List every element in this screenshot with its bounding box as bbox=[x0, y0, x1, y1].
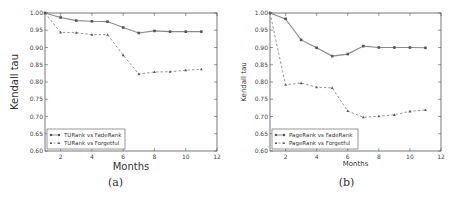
y-tick-label: 1.00 bbox=[30, 9, 44, 16]
y-tick-label: 0.95 bbox=[255, 26, 269, 33]
legend-label: PageRank vs Forgetful bbox=[289, 140, 351, 147]
y-tick-label: 0.95 bbox=[30, 26, 44, 33]
series-line-faderank bbox=[270, 13, 426, 56]
data-point-square bbox=[362, 45, 365, 48]
data-point-square bbox=[284, 18, 287, 21]
data-point-square bbox=[169, 30, 172, 33]
y-tick-label: 0.60 bbox=[255, 147, 269, 154]
legend: TURank vs FadeRankTURank vs Forgetful bbox=[47, 129, 125, 149]
data-point-square bbox=[91, 20, 94, 23]
legend-marker-square-icon bbox=[275, 134, 277, 136]
x-axis-title: Months bbox=[343, 160, 369, 168]
y-tick-label: 0.70 bbox=[255, 113, 269, 120]
y-tick-label: 0.75 bbox=[30, 95, 44, 102]
legend-label: TURank vs Forgetful bbox=[63, 140, 120, 147]
x-tick-label: 10 bbox=[182, 153, 190, 160]
caption-a: (a) bbox=[0, 176, 231, 189]
legend-label: PageRank vs FadeRank bbox=[289, 132, 353, 139]
x-tick-label: 2 bbox=[284, 153, 288, 160]
data-point-triangle bbox=[331, 86, 334, 89]
y-tick-label: 0.90 bbox=[255, 44, 269, 51]
data-point-square bbox=[424, 47, 427, 50]
legend-marker-square-icon bbox=[50, 134, 52, 136]
data-point-square bbox=[106, 20, 109, 23]
x-tick-label: 4 bbox=[315, 153, 319, 160]
caption-b: (b) bbox=[231, 176, 462, 189]
y-tick-label: 0.60 bbox=[30, 147, 44, 154]
y-tick-label: 0.80 bbox=[255, 78, 269, 85]
chart-panel-b: 0.600.650.700.750.800.850.900.951.002468… bbox=[231, 0, 462, 201]
x-tick-label: 8 bbox=[377, 153, 381, 160]
line-chart-b: 0.600.650.700.750.800.850.900.951.002468… bbox=[231, 0, 462, 201]
data-point-square bbox=[315, 47, 318, 50]
data-point-square bbox=[122, 26, 125, 29]
data-point-square bbox=[153, 30, 156, 33]
data-point-square bbox=[300, 39, 303, 42]
data-point-square bbox=[59, 16, 62, 19]
x-tick-label: 4 bbox=[90, 153, 94, 160]
x-tick-label: 2 bbox=[59, 153, 63, 160]
x-tick-label: 8 bbox=[153, 153, 157, 160]
legend-label: TURank vs FadeRank bbox=[63, 132, 122, 138]
x-axis-title: Months bbox=[113, 161, 150, 172]
data-point-square bbox=[378, 46, 381, 49]
data-point-square bbox=[331, 55, 334, 58]
data-point-square bbox=[138, 32, 141, 35]
y-tick-label: 0.80 bbox=[30, 78, 44, 85]
data-point-square bbox=[184, 30, 187, 33]
x-tick-label: 12 bbox=[437, 153, 445, 160]
data-point-triangle bbox=[106, 33, 109, 36]
y-axis-title: Kendall tau bbox=[240, 62, 248, 101]
y-tick-label: 0.85 bbox=[30, 61, 44, 68]
chart-panel-a: 0.600.650.700.750.800.850.900.951.002468… bbox=[0, 0, 231, 201]
data-point-triangle bbox=[346, 109, 349, 112]
x-tick-label: 10 bbox=[406, 153, 414, 160]
data-point-triangle bbox=[200, 68, 203, 71]
data-point-square bbox=[200, 30, 203, 33]
y-tick-label: 0.65 bbox=[30, 130, 44, 137]
data-point-square bbox=[75, 19, 78, 22]
series-line-forgetful bbox=[45, 13, 201, 74]
x-tick-label: 6 bbox=[346, 153, 350, 160]
y-tick-label: 0.75 bbox=[255, 95, 269, 102]
data-point-triangle bbox=[284, 83, 287, 86]
line-chart-a: 0.600.650.700.750.800.850.900.951.002468… bbox=[0, 0, 231, 201]
legend: PageRank vs FadeRankPageRank vs Forgetfu… bbox=[272, 129, 358, 149]
data-point-square bbox=[409, 46, 412, 49]
y-tick-label: 0.70 bbox=[30, 113, 44, 120]
data-point-square bbox=[393, 46, 396, 49]
x-tick-label: 12 bbox=[213, 153, 221, 160]
data-point-square bbox=[346, 53, 349, 56]
y-tick-label: 1.00 bbox=[255, 9, 269, 16]
legend-marker-square-icon bbox=[58, 134, 60, 136]
y-tick-label: 0.90 bbox=[30, 44, 44, 51]
y-tick-label: 0.65 bbox=[255, 130, 269, 137]
y-tick-label: 0.85 bbox=[255, 61, 269, 68]
legend-marker-square-icon bbox=[283, 134, 285, 136]
y-axis-title: Kendall tau bbox=[9, 54, 20, 110]
x-tick-label: 6 bbox=[121, 153, 125, 160]
